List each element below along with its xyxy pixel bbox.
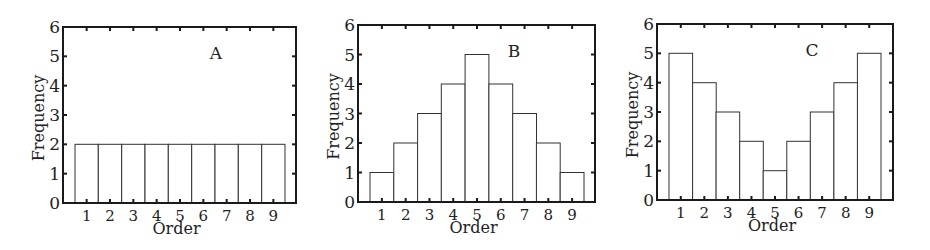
- y-tick-label: 0: [344, 192, 355, 212]
- x-tick-label: 3: [129, 207, 139, 225]
- y-tick-label: 0: [643, 190, 654, 210]
- histogram-bar: [168, 144, 191, 203]
- y-tick-label: 2: [344, 133, 355, 153]
- y-tick-label: 5: [49, 46, 60, 66]
- y-tick-label: 4: [49, 76, 60, 96]
- y-axis-label: Frequency: [29, 75, 48, 162]
- histogram-bar: [763, 171, 787, 200]
- x-tick-label: 9: [567, 206, 577, 224]
- histogram-bar: [192, 144, 215, 203]
- x-axis-label: Order: [748, 216, 796, 235]
- histogram-bar: [75, 144, 98, 203]
- y-tick-label: 1: [344, 163, 355, 183]
- histogram-bar: [716, 112, 740, 200]
- y-tick-label: 6: [49, 17, 60, 37]
- x-tick-label: 7: [520, 206, 530, 224]
- histogram-bar: [238, 144, 261, 203]
- histogram-bar: [810, 112, 834, 200]
- histogram-panels: 0123456123456789OrderFrequencyA 01234561…: [0, 0, 930, 250]
- x-tick-label: 8: [841, 204, 851, 222]
- x-axis-label: Order: [449, 218, 497, 237]
- y-tick-label: 3: [49, 105, 60, 125]
- y-tick-label: 1: [643, 161, 654, 181]
- histogram-bar: [370, 173, 394, 203]
- x-axis-label: Order: [152, 219, 200, 238]
- histogram-bar: [536, 143, 560, 202]
- y-tick-label: 0: [49, 193, 60, 213]
- figure-container: 0123456123456789OrderFrequencyA 01234561…: [0, 0, 930, 250]
- panel-a: 0123456123456789OrderFrequencyA: [29, 17, 296, 238]
- x-tick-label: 3: [723, 204, 733, 222]
- x-tick-label: 7: [817, 204, 827, 222]
- x-tick-label: 9: [864, 204, 874, 222]
- y-tick-label: 3: [344, 104, 355, 124]
- y-tick-label: 5: [344, 45, 355, 65]
- y-tick-label: 5: [643, 43, 654, 63]
- panel-label: A: [209, 43, 223, 63]
- y-axis-label: Frequency: [623, 72, 642, 159]
- histogram-bar: [740, 141, 764, 200]
- panel-b: 0123456123456789OrderFrequencyB: [324, 15, 595, 237]
- y-tick-label: 6: [344, 15, 355, 35]
- x-tick-label: 7: [222, 207, 232, 225]
- panel-label: C: [805, 40, 818, 60]
- x-tick-label: 1: [676, 204, 686, 222]
- x-tick-label: 2: [105, 207, 115, 225]
- x-tick-label: 1: [82, 207, 92, 225]
- panel-label: B: [508, 41, 521, 61]
- y-axis-label: Frequency: [324, 73, 343, 160]
- x-tick-label: 8: [245, 207, 255, 225]
- histogram-bar: [122, 144, 145, 203]
- y-tick-label: 4: [643, 73, 654, 93]
- histogram-bar: [418, 114, 442, 203]
- histogram-bar: [669, 53, 693, 200]
- histogram-bar: [513, 114, 537, 203]
- x-tick-label: 2: [401, 206, 411, 224]
- histogram-bar: [441, 84, 465, 202]
- y-tick-label: 2: [643, 131, 654, 151]
- y-tick-label: 1: [49, 164, 60, 184]
- x-tick-label: 9: [269, 207, 279, 225]
- y-tick-label: 3: [643, 102, 654, 122]
- histogram-bar: [262, 144, 285, 203]
- histogram-bar: [215, 144, 238, 203]
- x-tick-label: 3: [425, 206, 435, 224]
- y-tick-label: 2: [49, 134, 60, 154]
- histogram-bar: [489, 84, 513, 202]
- x-tick-label: 2: [700, 204, 710, 222]
- y-tick-label: 4: [344, 74, 355, 94]
- histogram-bar: [857, 53, 881, 200]
- histogram-bar: [98, 144, 121, 203]
- histogram-bar: [145, 144, 168, 203]
- x-tick-label: 8: [544, 206, 554, 224]
- histogram-bar: [394, 143, 418, 202]
- histogram-bar: [465, 55, 489, 203]
- x-tick-label: 1: [377, 206, 387, 224]
- histogram-bar: [560, 173, 584, 203]
- histogram-bar: [787, 141, 811, 200]
- y-tick-label: 6: [643, 14, 654, 34]
- histogram-bar: [834, 83, 858, 200]
- histogram-bar: [693, 83, 717, 200]
- panel-c: 0123456123456789OrderFrequencyC: [623, 14, 893, 235]
